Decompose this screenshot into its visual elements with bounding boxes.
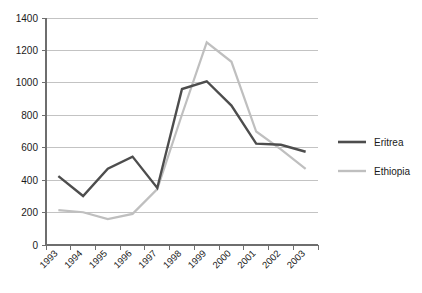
series-line-eritrea — [58, 81, 305, 196]
x-tick-label: 1999 — [185, 248, 208, 271]
x-tick-label: 1997 — [136, 248, 159, 271]
y-axis-tick-labels: 0200400600800100012001400 — [16, 13, 39, 251]
x-tick-label: 1998 — [161, 248, 184, 271]
x-tick-label: 2001 — [235, 248, 258, 271]
legend-label-eritrea: Eritrea — [374, 137, 404, 148]
y-tick-label: 200 — [21, 207, 38, 218]
series-line-ethiopia — [58, 42, 305, 219]
chart-canvas: 0200400600800100012001400 19931994199519… — [0, 0, 422, 293]
legend: EritreaEthiopia — [338, 137, 411, 177]
legend-label-ethiopia: Ethiopia — [374, 166, 411, 177]
x-tick-label: 1996 — [111, 248, 134, 271]
y-tick-label: 400 — [21, 175, 38, 186]
y-tick-label: 1200 — [16, 45, 39, 56]
y-tick-label: 0 — [32, 240, 38, 251]
x-axis-ticks — [46, 245, 318, 250]
x-tick-label: 2002 — [260, 248, 283, 271]
x-axis-tick-labels: 1993199419951996199719981999200020012002… — [37, 248, 307, 271]
y-tick-label: 1000 — [16, 77, 39, 88]
data-series-group — [58, 42, 305, 219]
y-axis-ticks — [42, 18, 46, 245]
y-tick-label: 1400 — [16, 13, 39, 24]
x-tick-label: 2003 — [284, 248, 307, 271]
x-tick-label: 2000 — [210, 248, 233, 271]
x-tick-label: 1993 — [37, 248, 60, 271]
y-tick-label: 800 — [21, 110, 38, 121]
line-chart: 0200400600800100012001400 19931994199519… — [0, 0, 422, 293]
y-tick-label: 600 — [21, 142, 38, 153]
x-tick-label: 1995 — [87, 248, 110, 271]
x-tick-label: 1994 — [62, 248, 85, 271]
